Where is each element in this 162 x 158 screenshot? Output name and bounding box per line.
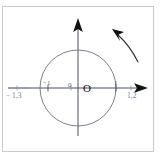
origin-label: O: [83, 83, 91, 94]
x-axis-left-end-label: − 1,3: [6, 92, 21, 100]
x-tick-label-zero: 0: [68, 82, 72, 89]
x-tick-label-minus-one: −1: [43, 80, 50, 87]
rotation-arc: [118, 35, 138, 62]
x-tick-label-one: 1: [114, 80, 118, 87]
figure-canvas: [0, 0, 162, 158]
x-axis-right-end-label: 1,2: [127, 92, 136, 100]
unit-circle-figure: − 1,3 −1 0 1 1,2 O: [0, 0, 162, 158]
